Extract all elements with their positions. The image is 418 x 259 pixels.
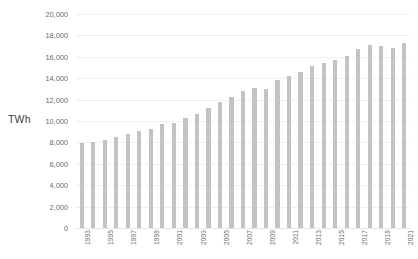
bar: [137, 131, 141, 228]
x-axis-tick-label: 2003: [200, 230, 207, 245]
x-axis-tick-label: 1997: [130, 230, 137, 245]
bar: [333, 60, 337, 228]
x-axis-tick-label: 2009: [269, 230, 276, 245]
bar: [241, 91, 245, 228]
x-axis-tick-label: 2017: [361, 230, 368, 245]
x-axis-tick-label: 2011: [292, 230, 299, 245]
bar: [252, 88, 256, 228]
y-axis-tick-label: 2,000: [50, 202, 69, 211]
y-axis-tick-label: 14,000: [45, 74, 68, 83]
bar: [356, 49, 360, 228]
bar: [345, 56, 349, 228]
bar: [149, 129, 153, 229]
bar: [287, 76, 291, 228]
bar: [91, 142, 95, 228]
x-axis-tick-label: 1999: [153, 230, 160, 245]
x-axis-tick-label: 2021: [407, 230, 414, 245]
x-axis-tick-label: 2015: [338, 230, 345, 245]
bar: [298, 72, 302, 228]
x-axis-tick-label: 2005: [223, 230, 230, 245]
x-axis-tick-label: 2013: [315, 230, 322, 245]
bar: [183, 118, 187, 228]
plot-area: [76, 14, 410, 228]
x-axis-tick-label: 1995: [107, 230, 114, 245]
bar: [126, 134, 130, 228]
bar: [172, 123, 176, 228]
y-axis-tick-label: 18,000: [45, 31, 68, 40]
bar-series: [76, 14, 410, 228]
y-axis-tick-label: 10,000: [45, 117, 68, 126]
y-axis-tick-label: 12,000: [45, 95, 68, 104]
y-axis-tick-label: 4,000: [50, 181, 69, 190]
bar: [379, 46, 383, 228]
bar: [195, 114, 199, 228]
bar: [391, 48, 395, 228]
x-axis-tick-label: 2019: [384, 230, 391, 245]
bar: [310, 66, 314, 228]
bar: [160, 124, 164, 228]
y-axis-tick-label: 8,000: [50, 138, 69, 147]
x-axis-tick-label: 1993: [84, 230, 91, 245]
bar-chart: TWh 02,0004,0006,0008,00010,00012,00014,…: [0, 0, 418, 259]
bar: [322, 63, 326, 228]
bar: [264, 89, 268, 228]
bar: [103, 140, 107, 228]
bar: [275, 80, 279, 228]
bar: [218, 102, 222, 228]
bar: [114, 137, 118, 228]
bar: [229, 97, 233, 228]
x-axis-tick-label: 2001: [176, 230, 183, 245]
y-axis-tick-label: 0: [64, 224, 68, 233]
y-axis-tick-label: 16,000: [45, 52, 68, 61]
bar: [402, 43, 406, 228]
x-axis-tick-labels: 1993199519971999200120032005200720092011…: [76, 228, 410, 259]
y-axis-tick-label: 20,000: [45, 10, 68, 19]
bar: [206, 108, 210, 228]
x-axis-tick-label: 2007: [246, 230, 253, 245]
bar: [80, 143, 84, 228]
bar: [368, 45, 372, 229]
y-axis-tick-labels: 02,0004,0006,0008,00010,00012,00014,0001…: [0, 14, 72, 228]
y-axis-tick-label: 6,000: [50, 159, 69, 168]
